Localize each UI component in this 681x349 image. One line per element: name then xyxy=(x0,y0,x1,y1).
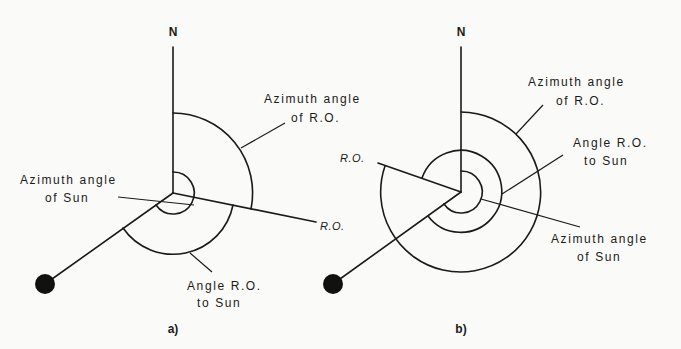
north-label-a: N xyxy=(169,25,178,39)
leader-azimuth-ro-b xyxy=(516,105,543,134)
label-azimuth-sun-line2-a: of Sun xyxy=(45,191,89,205)
sun-direction-line-a xyxy=(45,193,173,284)
panel-caption-a: a) xyxy=(168,322,179,336)
panel-caption-b: b) xyxy=(455,322,466,336)
leader-azimuth-ro-a xyxy=(241,123,285,148)
label-angle-ro-sun-line2-b: to Sun xyxy=(584,154,628,168)
label-azimuth-sun-line2-b: of Sun xyxy=(577,250,621,264)
label-azimuth-ro-line1-b: Azimuth angle xyxy=(528,75,625,89)
panel-b: N R.O. Azimuth angle of R.O. Angle R.O. … xyxy=(323,25,648,336)
sun-dot-icon-b xyxy=(323,274,343,294)
azimuth-sun-arc-b xyxy=(444,171,482,213)
sun-dot-icon-a xyxy=(35,274,55,294)
label-angle-ro-sun-line2-a: to Sun xyxy=(197,296,241,310)
leader-azimuth-sun-a xyxy=(118,197,194,205)
azimuth-angle-diagram: N R.O. Azimuth angle of R.O. Azimuth ang… xyxy=(0,0,681,349)
label-azimuth-sun-line1-a: Azimuth angle xyxy=(20,173,117,187)
label-azimuth-sun-line1-b: Azimuth angle xyxy=(551,232,648,246)
angle-ro-sun-arc-b xyxy=(422,150,502,232)
label-azimuth-ro-line1-a: Azimuth angle xyxy=(264,92,361,106)
azimuth-ro-arc-a xyxy=(173,113,253,209)
ro-end-label-b: R.O. xyxy=(340,152,365,164)
label-angle-ro-sun-line1-b: Angle R.O. xyxy=(573,136,648,150)
ro-end-label-a: R.O. xyxy=(320,220,345,232)
ro-direction-line-b xyxy=(378,163,461,192)
north-label-b: N xyxy=(457,25,466,39)
panel-a: N R.O. Azimuth angle of R.O. Azimuth ang… xyxy=(20,25,361,336)
angle-ro-sun-arc-a xyxy=(123,205,233,254)
leader-angle-ro-sun-a xyxy=(190,253,212,272)
label-angle-ro-sun-line1-a: Angle R.O. xyxy=(187,279,262,293)
leader-angle-ro-sun-b xyxy=(502,155,563,194)
label-azimuth-ro-line2-a: of R.O. xyxy=(291,111,340,125)
label-azimuth-ro-line2-b: of R.O. xyxy=(556,94,605,108)
